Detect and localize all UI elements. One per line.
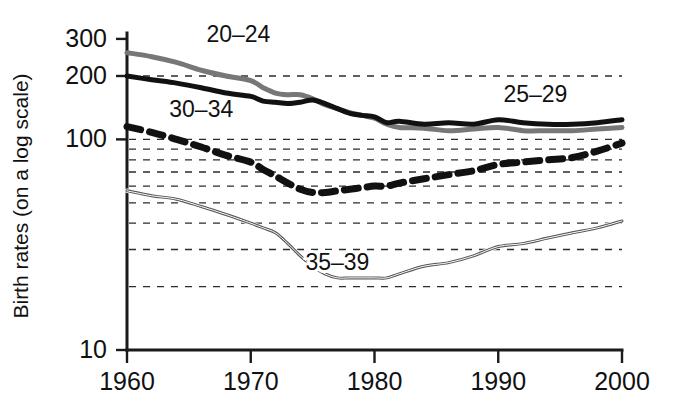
series-label-30-34: 30–34 [169, 96, 233, 122]
x-tick-label: 1990 [470, 367, 526, 395]
birth-rates-chart: 30020010010 19601970198019902000 20–2425… [0, 0, 677, 416]
series-label-25-29: 25–29 [503, 81, 567, 107]
series-label-20-24: 20–24 [206, 21, 270, 47]
chart-canvas: 30020010010 19601970198019902000 20–2425… [0, 0, 677, 416]
series-line-35-39-halo [127, 191, 622, 278]
y-tick-label: 300 [65, 24, 107, 52]
x-tick-label: 1970 [223, 367, 279, 395]
y-tick-label: 10 [79, 335, 107, 363]
series-annotations: 20–2425–2930–3435–39 [169, 21, 567, 275]
y-axis-title: Birth rates (on a log scale) [9, 73, 32, 318]
series-line-35-39-core [127, 191, 622, 278]
y-tick-label: 100 [65, 124, 107, 152]
series-line-35-39 [127, 191, 622, 278]
x-tick-label: 2000 [594, 367, 650, 395]
x-tick-labels: 19601970198019902000 [99, 367, 650, 395]
y-tick-label: 200 [65, 61, 107, 89]
x-tick-label: 1960 [99, 367, 155, 395]
series-label-35-39: 35–39 [305, 249, 369, 275]
y-tick-labels: 30020010010 [65, 24, 107, 363]
x-tick-label: 1980 [347, 367, 403, 395]
